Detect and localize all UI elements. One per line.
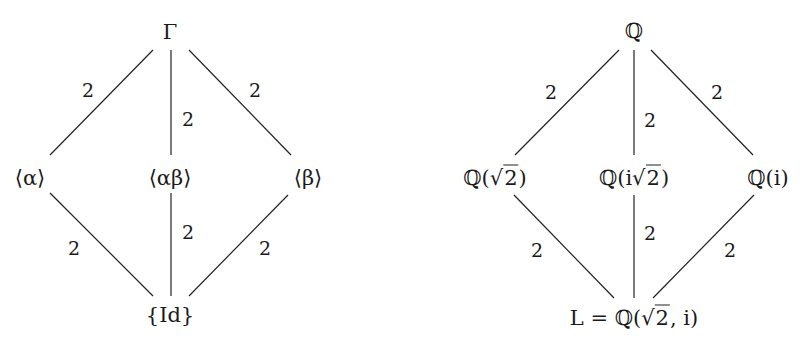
edge-label: 2 (531, 241, 543, 260)
node-q-sqrt2: ℚ(√2) (463, 168, 526, 189)
edge-label: 2 (545, 83, 557, 102)
node-identity: {Id} (146, 305, 194, 326)
edge-label: 2 (724, 241, 736, 260)
sqrt-symbol: √2 (490, 168, 519, 189)
node-text: ) (519, 166, 527, 190)
node-q: ℚ (625, 21, 643, 42)
radicand: 2 (646, 165, 661, 190)
node-q-i-sqrt2: ℚ(i√2) (599, 168, 669, 189)
edge-label: 2 (644, 224, 656, 243)
edge-qi-l (653, 195, 754, 298)
node-l: L = ℚ(√2, i) (570, 308, 698, 329)
edge-gamma-alpha (50, 50, 153, 155)
radicand: 2 (503, 165, 518, 190)
node-text: ℚ( (463, 166, 490, 190)
node-q-i: ℚ(i) (747, 168, 788, 189)
edge-label: 2 (182, 110, 194, 129)
edge-label: 2 (68, 239, 80, 258)
edge-label: 2 (711, 83, 723, 102)
edge-qsqrt2-l (514, 195, 614, 298)
node-beta: ⟨β⟩ (294, 168, 323, 189)
edge-label: 2 (259, 239, 271, 258)
edge-label: 2 (82, 81, 94, 100)
edge-q-qsqrt2 (515, 50, 619, 155)
edge-label: 2 (182, 223, 194, 242)
node-text: ) (661, 166, 669, 190)
radicand: 2 (655, 305, 670, 330)
node-alpha: ⟨α⟩ (15, 168, 46, 189)
edge-alpha-id (50, 193, 153, 296)
node-gamma: Γ (163, 22, 178, 43)
node-text: L = ℚ( (570, 306, 641, 330)
edge-label: 2 (644, 111, 656, 130)
edge-label: 2 (249, 81, 261, 100)
edge-q-qi (651, 50, 753, 155)
sqrt-symbol: √2 (632, 168, 661, 189)
lattice-edges (0, 0, 805, 341)
node-text: , i) (670, 306, 698, 330)
edge-gamma-beta (189, 50, 291, 155)
node-alphabeta: ⟨αβ⟩ (149, 168, 192, 189)
edge-beta-id (189, 195, 288, 296)
sqrt-symbol: √2 (641, 308, 670, 329)
node-text: ℚ(i (599, 166, 632, 190)
